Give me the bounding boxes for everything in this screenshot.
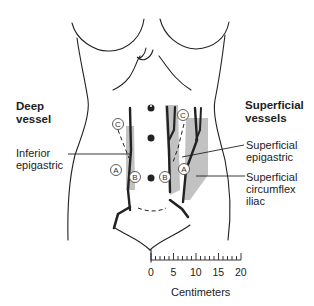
inferior-epigastric-label: Inferior epigastric bbox=[16, 147, 63, 171]
scale-unit-label: Centimeters bbox=[171, 286, 230, 298]
scale-tick-label: 0 bbox=[148, 266, 154, 278]
right-lower-branch bbox=[170, 200, 188, 217]
left-breast-curve bbox=[72, 19, 144, 51]
scale-bar bbox=[151, 253, 241, 260]
right-breast-curve bbox=[160, 19, 229, 49]
groin-right bbox=[150, 225, 190, 250]
scale-tick-label: 10 bbox=[190, 266, 202, 278]
marker-b-right-label: B bbox=[162, 173, 167, 182]
groin-left bbox=[115, 228, 150, 250]
left-lower-branch bbox=[114, 207, 130, 228]
left-body-outline bbox=[68, 38, 89, 240]
marker-a-right-label: A bbox=[181, 165, 187, 174]
marker-a-left-label: A bbox=[113, 166, 119, 175]
superficial-vessels-label: Superficial vessels bbox=[245, 99, 304, 125]
lower-dot bbox=[148, 175, 155, 182]
marker-c-left-label: C bbox=[115, 120, 121, 129]
left-ribcage bbox=[113, 56, 140, 90]
scale-tick-label: 20 bbox=[235, 266, 247, 278]
marker-b-left-label: B bbox=[132, 173, 137, 182]
umbilical-dashed-line bbox=[138, 208, 166, 211]
scale-tick-label: 15 bbox=[213, 266, 225, 278]
upper-dot-highlight bbox=[150, 105, 152, 107]
superficial-epigastric-label: Superficial epigastric bbox=[246, 139, 297, 163]
right-body-outline bbox=[214, 35, 230, 240]
marker-c-right-label: C bbox=[180, 111, 186, 120]
superficial-circumflex-iliac-label: Superficial circumflex iliac bbox=[246, 171, 297, 207]
scale-tick-label: 5 bbox=[171, 266, 177, 278]
deep-vessel-label: Deep vessel bbox=[16, 100, 51, 126]
abdominal-vessel-diagram: C A B C B A Deep vessel Inferior epigast… bbox=[0, 0, 314, 306]
right-ribcage bbox=[159, 56, 191, 90]
middle-dot bbox=[148, 135, 155, 142]
